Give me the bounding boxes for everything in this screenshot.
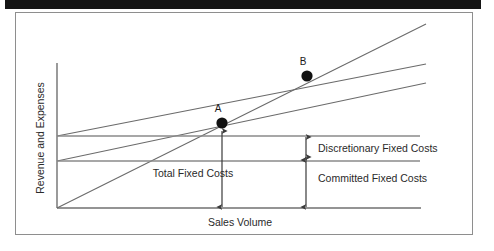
discretionary-fixed-costs-label: Discretionary Fixed Costs xyxy=(318,142,438,154)
x-axis-title: Sales Volume xyxy=(208,216,272,228)
data-point-b-label: B xyxy=(300,56,307,67)
data-point-a-label: A xyxy=(215,103,222,114)
data-point-a xyxy=(216,117,227,128)
figure-page: A B Discretionary Fixed Costs Total Fixe… xyxy=(0,0,494,251)
y-axis-title: Revenue and Expenses xyxy=(34,82,46,194)
cost-volume-profit-chart: A B Discretionary Fixed Costs Total Fixe… xyxy=(16,13,472,234)
figure-frame: A B Discretionary Fixed Costs Total Fixe… xyxy=(15,12,473,235)
committed-fixed-costs-label: Committed Fixed Costs xyxy=(318,172,427,184)
top-black-bar xyxy=(5,0,481,9)
total-cost-line xyxy=(57,64,426,136)
total-fixed-costs-label: Total Fixed Costs xyxy=(153,167,234,179)
data-point-b xyxy=(301,70,312,81)
